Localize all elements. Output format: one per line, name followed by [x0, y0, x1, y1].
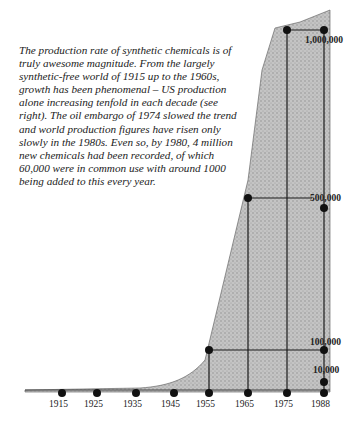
x-label-1975: 1975 [274, 399, 293, 409]
dot-500000-marker [320, 204, 328, 212]
dot-1988-top [320, 26, 328, 34]
x-label-1965: 1965 [235, 399, 254, 409]
y-label-500000: 500,000 [310, 193, 341, 203]
dot-1955-mid [205, 346, 213, 354]
y-label-10000: 10,000 [313, 365, 339, 375]
y-label-1000000: 1,000,000 [305, 35, 343, 45]
dot-1975-top [283, 26, 291, 34]
y-label-100000: 100,000 [310, 337, 341, 347]
x-label-1925: 1925 [84, 399, 103, 409]
year-dot-1945 [170, 389, 178, 397]
dot-1965-mid [244, 194, 252, 202]
year-dot-1925 [93, 389, 101, 397]
year-dot-1965 [244, 389, 252, 397]
x-label-1935: 1935 [123, 399, 142, 409]
x-label-1955: 1955 [196, 399, 215, 409]
year-dot-1988 [320, 389, 328, 397]
x-label-1988: 1988 [311, 399, 330, 409]
production-area [25, 10, 330, 392]
year-dot-1935 [132, 389, 140, 397]
x-label-1945: 1945 [161, 399, 180, 409]
year-dot-1915 [58, 389, 66, 397]
year-dot-1975 [283, 389, 291, 397]
production-chart: 1,000,000 500,000 100,000 10,000 1915 19… [0, 0, 363, 426]
dot-100000-marker [320, 346, 328, 354]
x-label-1915: 1915 [49, 399, 68, 409]
year-dot-1955 [205, 389, 213, 397]
dot-10000-marker [320, 378, 328, 386]
